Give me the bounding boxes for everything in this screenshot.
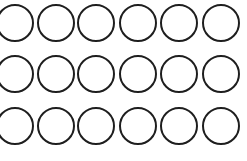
circle-r2-c1 (0, 55, 34, 93)
circle-r2-c2 (37, 55, 75, 93)
circle-grid (0, 0, 247, 161)
circle-r2-c6 (202, 55, 240, 93)
circle-r1-c6 (202, 4, 240, 42)
circle-r1-c1 (0, 4, 34, 42)
circle-r1-c3 (77, 4, 115, 42)
circle-r3-c4 (119, 107, 157, 145)
circle-r1-c4 (119, 4, 157, 42)
circle-r2-c3 (77, 55, 115, 93)
circle-r3-c3 (77, 107, 115, 145)
circle-r1-c5 (160, 4, 198, 42)
circle-r3-c2 (37, 107, 75, 145)
circle-r3-c5 (160, 107, 198, 145)
circle-r2-c4 (119, 55, 157, 93)
circle-r2-c5 (160, 55, 198, 93)
circle-r3-c1 (0, 107, 34, 145)
circle-r1-c2 (37, 4, 75, 42)
circle-r3-c6 (202, 107, 240, 145)
